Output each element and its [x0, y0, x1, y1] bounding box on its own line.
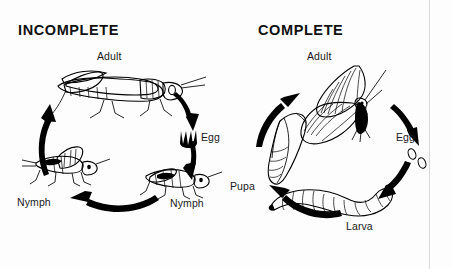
arrow-egg-to-larva-icon [378, 161, 411, 199]
stage-label-pupa: Pupa [230, 180, 255, 192]
stage-label-nymph-early: Nymph [17, 196, 51, 208]
chrysalis-pupa-icon [268, 113, 306, 184]
stage-label-adult: Adult [97, 50, 121, 62]
grasshopper-nymph-icon [140, 169, 222, 199]
complete-cycle-artwork [226, 0, 452, 269]
grasshopper-nymph-small-icon [22, 147, 110, 186]
metamorphosis-diagram: INCOMPLETE [0, 0, 452, 269]
incomplete-cycle-artwork [0, 0, 226, 269]
arrow-nymph-to-nymph-icon [70, 191, 159, 212]
stage-label-egg: Egg [201, 131, 220, 143]
stage-label-adult: Adult [307, 50, 331, 62]
panel-complete-metamorphosis: COMPLETE [226, 0, 452, 269]
panel-incomplete-metamorphosis: INCOMPLETE [0, 0, 226, 269]
grasshopper-adult-icon [44, 71, 206, 118]
butterfly-adult-icon [301, 66, 386, 144]
stage-label-nymph-late: Nymph [170, 197, 204, 209]
stage-label-larva: Larva [346, 220, 373, 232]
egg-cluster-icon [180, 130, 197, 148]
stage-label-egg: Egg [396, 131, 415, 143]
arrow-nymph-to-adult-icon [39, 104, 56, 176]
arrow-pupa-to-adult-icon [256, 93, 300, 147]
egg-pair-icon [407, 148, 428, 170]
